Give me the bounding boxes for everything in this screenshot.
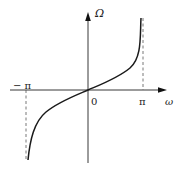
Omega-axis-arrow-icon [85, 12, 91, 21]
neg-pi-tick-label: − π [13, 81, 31, 91]
omega-axis-label: ω [165, 97, 173, 107]
pos-pi-tick-label: π [139, 97, 146, 107]
warping-diagram: Ω − π 0 π ω [0, 0, 183, 169]
origin-label: 0 [91, 97, 97, 107]
warping-curve [28, 18, 141, 160]
omega-axis-arrow-icon [158, 87, 167, 93]
Omega-axis-label: Ω [95, 8, 104, 19]
